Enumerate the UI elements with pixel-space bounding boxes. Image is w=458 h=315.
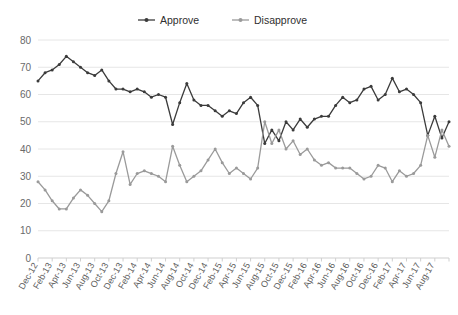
data-point-disapprove: [249, 177, 252, 180]
data-point-disapprove: [157, 175, 160, 178]
data-point-approve: [242, 101, 245, 104]
y-axis-tick-label: 40: [20, 144, 32, 155]
data-point-disapprove: [129, 183, 132, 186]
legend-label: Approve: [160, 14, 199, 26]
data-point-approve: [228, 109, 231, 112]
data-point-approve: [362, 88, 365, 91]
data-point-disapprove: [377, 164, 380, 167]
data-point-disapprove: [207, 158, 210, 161]
series-line-disapprove: [38, 122, 449, 212]
data-point-approve: [129, 90, 132, 93]
data-point-approve: [285, 120, 288, 123]
data-point-disapprove: [341, 167, 344, 170]
data-point-approve: [391, 77, 394, 80]
data-point-approve: [384, 93, 387, 96]
data-point-disapprove: [391, 180, 394, 183]
data-point-approve: [292, 128, 295, 131]
data-point-approve: [249, 96, 252, 99]
data-point-approve: [58, 63, 61, 66]
data-point-disapprove: [306, 148, 309, 151]
data-point-disapprove: [320, 164, 323, 167]
data-point-approve: [143, 90, 146, 93]
data-point-disapprove: [114, 172, 117, 175]
data-point-approve: [256, 104, 259, 107]
data-point-disapprove: [178, 164, 181, 167]
data-point-disapprove: [150, 172, 153, 175]
y-axis-tick-label: 70: [20, 62, 32, 73]
data-point-approve: [72, 60, 75, 63]
data-point-approve: [136, 88, 139, 91]
data-point-approve: [320, 115, 323, 118]
data-point-disapprove: [44, 188, 47, 191]
data-point-approve: [263, 142, 266, 145]
data-point-approve: [199, 104, 202, 107]
data-point-approve: [114, 88, 117, 91]
data-point-disapprove: [277, 128, 280, 131]
data-point-approve: [86, 71, 89, 74]
legend-marker-dot: [145, 18, 149, 22]
data-point-disapprove: [426, 134, 429, 137]
data-point-disapprove: [100, 210, 103, 213]
data-point-disapprove: [384, 167, 387, 170]
data-point-disapprove: [86, 194, 89, 197]
data-point-approve: [100, 68, 103, 71]
data-point-approve: [157, 93, 160, 96]
y-axis-tick-label: 60: [20, 89, 32, 100]
data-point-approve: [37, 79, 40, 82]
data-point-disapprove: [192, 175, 195, 178]
y-axis-tick-label: 80: [20, 35, 32, 46]
data-point-approve: [107, 79, 110, 82]
data-point-disapprove: [185, 180, 188, 183]
y-axis-tick-label: 10: [20, 225, 32, 236]
approval-rating-chart: 01020304050607080Dec-12Feb-13Apr-13Jun-1…: [0, 0, 458, 315]
data-point-disapprove: [448, 145, 451, 148]
data-point-disapprove: [327, 161, 330, 164]
data-point-approve: [306, 126, 309, 129]
data-point-disapprove: [122, 150, 125, 153]
data-point-approve: [207, 104, 210, 107]
data-point-disapprove: [199, 169, 202, 172]
data-point-approve: [93, 74, 96, 77]
legend-marker-dot: [239, 18, 243, 22]
data-point-disapprove: [58, 207, 61, 210]
chart-legend: ApproveDisapprove: [138, 14, 307, 26]
data-point-disapprove: [171, 145, 174, 148]
data-point-approve: [440, 137, 443, 140]
data-point-disapprove: [235, 167, 238, 170]
line-chart-canvas: 01020304050607080Dec-12Feb-13Apr-13Jun-1…: [0, 0, 458, 315]
data-point-disapprove: [51, 199, 54, 202]
data-point-approve: [79, 66, 82, 69]
data-point-approve: [51, 68, 54, 71]
y-axis-tick-label: 50: [20, 116, 32, 127]
data-point-disapprove: [136, 172, 139, 175]
data-point-approve: [370, 85, 373, 88]
data-point-approve: [270, 128, 273, 131]
data-point-disapprove: [334, 167, 337, 170]
data-point-approve: [334, 104, 337, 107]
data-point-disapprove: [93, 202, 96, 205]
data-point-disapprove: [242, 172, 245, 175]
data-point-approve: [341, 96, 344, 99]
data-point-disapprove: [355, 172, 358, 175]
data-point-approve: [44, 71, 47, 74]
data-point-approve: [405, 88, 408, 91]
data-point-disapprove: [398, 169, 401, 172]
series-line-approve: [38, 56, 449, 143]
data-point-approve: [348, 101, 351, 104]
data-point-disapprove: [72, 197, 75, 200]
data-point-approve: [313, 118, 316, 121]
data-point-disapprove: [263, 120, 266, 123]
data-point-disapprove: [79, 188, 82, 191]
data-point-approve: [214, 109, 217, 112]
data-point-disapprove: [143, 169, 146, 172]
data-point-disapprove: [440, 128, 443, 131]
data-point-disapprove: [419, 164, 422, 167]
data-point-disapprove: [228, 172, 231, 175]
data-point-approve: [221, 115, 224, 118]
data-point-disapprove: [65, 207, 68, 210]
data-point-approve: [192, 98, 195, 101]
data-point-disapprove: [405, 175, 408, 178]
data-point-approve: [171, 123, 174, 126]
y-axis-tick-label: 20: [20, 198, 32, 209]
data-point-approve: [164, 96, 167, 99]
